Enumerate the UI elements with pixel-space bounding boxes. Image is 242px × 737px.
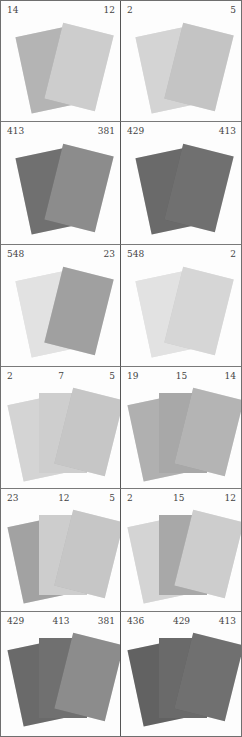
swatch-cell[interactable]: 436429413: [121, 612, 241, 736]
swatch-label: 5: [230, 5, 236, 15]
swatch-label: 413: [52, 616, 69, 626]
swatch-cell[interactable]: 1412: [1, 1, 121, 122]
swatch-label: 2: [230, 249, 236, 259]
swatch-label: 2: [127, 493, 133, 503]
swatch-label: 23: [104, 249, 115, 259]
swatch-label: 381: [98, 126, 115, 136]
swatch-cell[interactable]: 54823: [1, 245, 121, 367]
swatch-label: 19: [127, 371, 138, 381]
swatch-label: 548: [7, 249, 24, 259]
swatch-grid: 1412 25 413381 429413 54823 5482 275 191…: [0, 0, 242, 737]
swatch-label: 381: [98, 616, 115, 626]
swatch-cell[interactable]: 275: [1, 367, 121, 489]
swatch-cell[interactable]: 413381: [1, 122, 121, 245]
swatch-label: 7: [58, 371, 64, 381]
swatch-label: 548: [127, 249, 144, 259]
swatch-label: 429: [7, 616, 24, 626]
swatch-cell[interactable]: 5482: [121, 245, 241, 367]
swatch-label: 15: [176, 371, 187, 381]
swatch-label: 2: [7, 371, 13, 381]
swatch-cell[interactable]: 25: [121, 1, 241, 122]
swatch-label: 413: [7, 126, 24, 136]
swatch-cell[interactable]: 429413381: [1, 612, 121, 736]
swatch-cell[interactable]: 21512: [121, 489, 241, 612]
swatch-label: 2: [127, 5, 133, 15]
swatch-label: 14: [225, 371, 236, 381]
swatch-label: 12: [104, 5, 115, 15]
swatch-cell[interactable]: 191514: [121, 367, 241, 489]
swatch-label: 429: [173, 616, 190, 626]
swatch-label: 15: [173, 493, 184, 503]
swatch-label: 413: [219, 126, 236, 136]
swatch-label: 14: [7, 5, 18, 15]
swatch-label: 5: [109, 371, 115, 381]
swatch-label: 12: [225, 493, 236, 503]
swatch-label: 429: [127, 126, 144, 136]
swatch-cell[interactable]: 23125: [1, 489, 121, 612]
swatch-cell[interactable]: 429413: [121, 122, 241, 245]
swatch-label: 23: [7, 493, 18, 503]
swatch-label: 5: [109, 493, 115, 503]
swatch-label: 413: [219, 616, 236, 626]
swatch-label: 436: [127, 616, 144, 626]
swatch-label: 12: [58, 493, 69, 503]
